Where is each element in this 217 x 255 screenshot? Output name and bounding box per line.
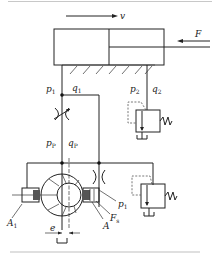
label-q1: q1: [72, 83, 82, 94]
label-p1-top: p1: [46, 84, 56, 95]
ground-hatch: [62, 65, 155, 74]
hydraulic-cylinder: [54, 29, 210, 74]
velocity-label: v: [120, 11, 125, 21]
velocity-arrow: v: [66, 11, 125, 21]
hydraulic-circuit-diagram: v F p1 q1 pP: [0, 0, 217, 255]
label-A1: A1: [6, 218, 17, 229]
control-piston-A1: A1: [6, 188, 40, 229]
label-q2: q2: [152, 84, 162, 95]
label-e: e: [50, 223, 55, 233]
junction-feedback: [97, 161, 101, 165]
junction-pp: [60, 161, 64, 165]
force-label: F: [194, 29, 202, 39]
label-qp: qP: [68, 138, 78, 149]
label-p2: p2: [130, 84, 140, 95]
label-Fs: Fs: [109, 213, 119, 224]
label-A: A: [102, 221, 110, 231]
relief-valve-2: [132, 176, 177, 216]
force-arrow: F: [177, 29, 210, 43]
tank: [57, 238, 67, 243]
variable-vane-pump: [12, 158, 83, 228]
label-p1-pump: p1: [118, 199, 128, 210]
label-pp: pP: [46, 138, 56, 149]
relief-valve-1: [128, 102, 172, 139]
control-piston-A: p1 Fs A: [82, 188, 128, 231]
